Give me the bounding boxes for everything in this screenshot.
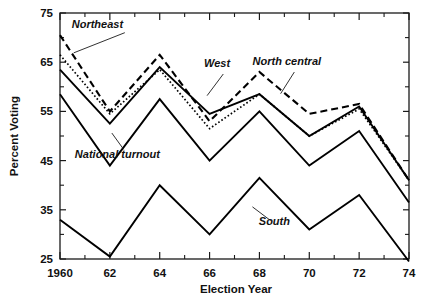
x-tick-label: 70 <box>303 267 316 279</box>
x-tick-label: 64 <box>153 267 166 279</box>
y-tick-label: 75 <box>40 7 53 19</box>
x-tick-label: 62 <box>103 267 116 279</box>
y-axis-title: Percent Voting <box>8 96 20 176</box>
y-tick-label: 25 <box>40 253 53 265</box>
y-tick-label: 55 <box>40 105 53 117</box>
y-tick-label: 35 <box>40 204 53 216</box>
series-label-south: South <box>259 215 290 227</box>
x-tick-label: 68 <box>253 267 266 279</box>
chart-background <box>0 0 427 298</box>
series-label-north-central: North central <box>253 55 322 67</box>
y-tick-label: 45 <box>40 155 53 167</box>
x-tick-label: 74 <box>403 267 416 279</box>
y-tick-label: 65 <box>40 56 53 68</box>
series-label-national-turnout: National turnout <box>75 148 161 160</box>
series-label-west: West <box>204 57 231 69</box>
x-tick-label: 66 <box>203 267 216 279</box>
series-label-northeast: Northeast <box>72 18 125 30</box>
x-tick-label: 72 <box>353 267 366 279</box>
chart-canvas: 756555453525 196062646668707274 Northeas… <box>0 0 427 298</box>
x-tick-label: 1960 <box>47 267 73 279</box>
x-axis-title: Election Year <box>200 283 273 295</box>
election-turnout-line-chart: 756555453525 196062646668707274 Northeas… <box>0 0 427 298</box>
